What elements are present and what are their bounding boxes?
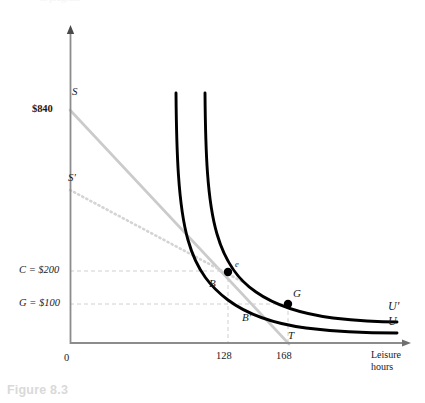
x-axis-arrowhead-icon [402, 340, 411, 347]
label-curve-U: U [388, 315, 397, 327]
label-S-prime: S' [68, 172, 76, 183]
figure-container: nt program $840 C = $200 G = $100 [0, 0, 425, 403]
data-point-G[interactable] [284, 300, 292, 308]
indifference-curve-U [176, 93, 397, 333]
data-point-e[interactable] [224, 268, 232, 276]
label-B-prime: B' [242, 312, 251, 323]
label-B: B [209, 278, 216, 289]
label-T: T [288, 330, 294, 341]
economics-graph [0, 0, 425, 403]
label-e: e [235, 260, 239, 269]
y-axis-arrowhead-icon [67, 25, 74, 34]
figure-caption: Figure 8.3 [7, 383, 68, 397]
x-axis-title: Leisure hours [371, 349, 401, 373]
y-tick-label-840: $840 [32, 104, 53, 115]
label-G-point: G [293, 288, 301, 299]
origin-label: 0 [64, 353, 69, 364]
axes [67, 25, 411, 346]
x-tick-label-168: 168 [276, 351, 292, 362]
label-S: S [72, 86, 78, 97]
x-tick-label-128: 128 [216, 351, 232, 362]
indifference-curve-U-prime [205, 93, 397, 322]
y-tick-label-c200: C = $200 [19, 265, 59, 276]
label-curve-U-prime: U' [388, 300, 399, 312]
budget-line-S-T [70, 110, 289, 344]
y-tick-label-g100: G = $100 [19, 298, 60, 309]
